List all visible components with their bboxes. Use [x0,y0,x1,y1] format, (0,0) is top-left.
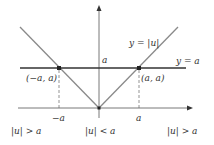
x-axis [18,106,193,111]
region-right-label: |u| > a [167,126,198,137]
x-axis-arrow-icon [187,106,193,111]
y-axis-arrow-icon [97,5,102,11]
y-axis [97,5,102,118]
region-left-label: |u| > a [11,126,42,137]
label-a-axis: a [102,55,107,65]
label-point-left: (−a, a) [26,73,58,83]
label-y-abs-u: y = |u| [128,38,159,49]
label-y-a: y = a [175,56,200,66]
region-middle-label: |u| < a [85,126,116,137]
point-left-marker [57,66,61,70]
point-right-marker [137,66,141,70]
label-point-right: (a, a) [141,73,165,83]
origin-marker [98,107,101,110]
absolute-value-diagram: y = |u| y = a a (−a, a) (a, a) −a a |u| … [0,0,214,145]
tick-label-a: a [136,113,141,123]
tick-label-neg-a: −a [52,113,65,123]
